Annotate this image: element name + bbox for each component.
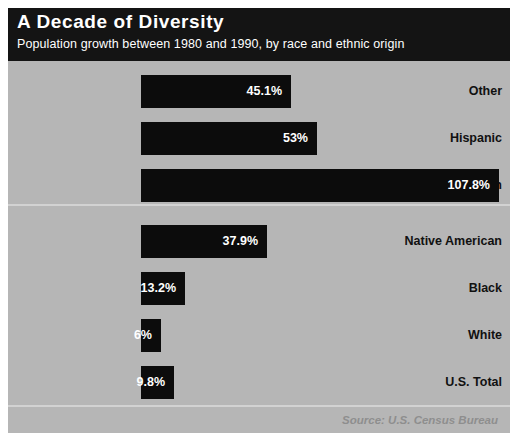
bar-row: Other45.1% [8, 75, 510, 108]
bar [141, 169, 499, 202]
bar-row: White6% [8, 319, 510, 352]
bar-track: 6% [141, 319, 161, 352]
bar-category-label: Hispanic [377, 122, 510, 155]
bar-value-label: 45.1% [247, 75, 282, 108]
bar-row: Asian107.8% [8, 169, 510, 202]
bar-row: Native American37.9% [8, 225, 510, 258]
bar-track: 13.2% [141, 272, 185, 305]
bar-value-label: 37.9% [223, 225, 258, 258]
group-divider [8, 204, 510, 206]
bar-value-label: 107.8% [448, 169, 490, 202]
bar-value-label: 53% [283, 122, 308, 155]
bar-row: U.S. Total9.8% [8, 366, 510, 399]
bar-category-label: U.S. Total [377, 366, 510, 399]
chart-title: A Decade of Diversity [17, 10, 224, 34]
bar-category-label: White [377, 319, 510, 352]
bar-row: Hispanic53% [8, 122, 510, 155]
bar-track: 107.8% [141, 169, 499, 202]
chart-figure: A Decade of Diversity Population growth … [0, 0, 518, 441]
footer-divider [8, 405, 510, 407]
bar-value-label: 13.2% [141, 272, 176, 305]
bar-row: Black13.2% [8, 272, 510, 305]
bar-value-label: 9.8% [137, 366, 166, 399]
bar-category-label: Other [377, 75, 510, 108]
chart-plot-area: Other45.1%Hispanic53%Asian107.8%Native A… [8, 61, 510, 433]
bar-track: 53% [141, 122, 317, 155]
source-note: Source: U.S. Census Bureau [342, 414, 498, 426]
bar-value-label: 6% [134, 319, 152, 352]
bar-track: 37.9% [141, 225, 267, 258]
bar-track: 9.8% [141, 366, 174, 399]
bar-track: 45.1% [141, 75, 291, 108]
chart-subtitle: Population growth between 1980 and 1990,… [17, 36, 404, 53]
chart-header-band: A Decade of Diversity Population growth … [8, 8, 510, 61]
bar-category-label: Black [377, 272, 510, 305]
bar-category-label: Native American [377, 225, 510, 258]
